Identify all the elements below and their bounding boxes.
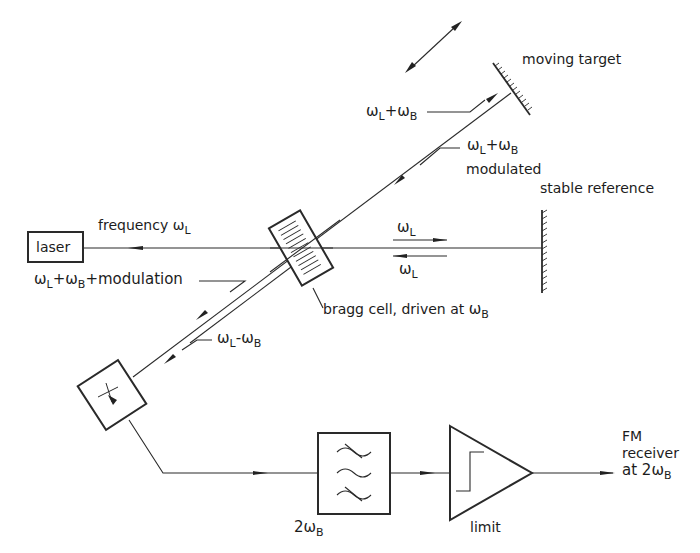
from-target-modulated-label: modulated xyxy=(466,162,541,177)
motion-arrow-head-down-icon xyxy=(405,62,416,73)
frequency-label: frequency ωL xyxy=(98,218,191,238)
ref-back-label: ωL xyxy=(399,262,418,282)
limiter-triangle xyxy=(450,426,532,520)
filter-symbols-icon xyxy=(337,444,371,501)
signal-line-1 xyxy=(129,420,318,473)
arrow-return-mod-icon xyxy=(196,310,208,320)
output-label-line3: at 2ωB xyxy=(622,463,672,483)
return-ref-label: ωL-ωB xyxy=(217,331,261,351)
output-label-line2: receiver xyxy=(622,446,679,461)
to-target-label: ωL+ωB xyxy=(366,104,417,124)
filter-label: 2ωB xyxy=(294,520,324,540)
arrow-output-icon xyxy=(600,471,615,475)
bragg-cell-label: bragg cell, driven at ωB xyxy=(323,302,489,322)
arrow-signal-2-icon xyxy=(420,471,435,475)
arrow-frequency-icon xyxy=(128,246,143,250)
moving-target-mirror xyxy=(493,63,530,115)
leader-return-ref xyxy=(182,340,212,350)
moving-target-hatch xyxy=(495,63,532,110)
photodetector xyxy=(78,360,147,430)
stable-reference-label: stable reference xyxy=(540,181,654,196)
ref-out-label: ωL xyxy=(397,220,416,240)
arrow-to-target-icon xyxy=(486,93,498,103)
arrow-return-ref-icon xyxy=(164,354,176,364)
limiter-label: limit xyxy=(470,520,501,535)
leader-to-target xyxy=(427,100,485,112)
moving-target-label: moving target xyxy=(522,52,621,67)
leader-bragg xyxy=(313,288,323,308)
arrow-ref-out-icon xyxy=(433,238,447,242)
arrow-signal-1-icon xyxy=(253,471,268,475)
from-target-label: ωL+ωB xyxy=(467,138,518,158)
return-mod-label: ωL+ωB+modulation xyxy=(34,272,183,292)
leader-return-mod xyxy=(199,281,245,292)
laser-label: laser xyxy=(36,240,70,255)
motion-arrow xyxy=(412,27,455,67)
arrow-ref-back-icon xyxy=(393,254,407,258)
output-label-line1: FM xyxy=(622,429,642,444)
